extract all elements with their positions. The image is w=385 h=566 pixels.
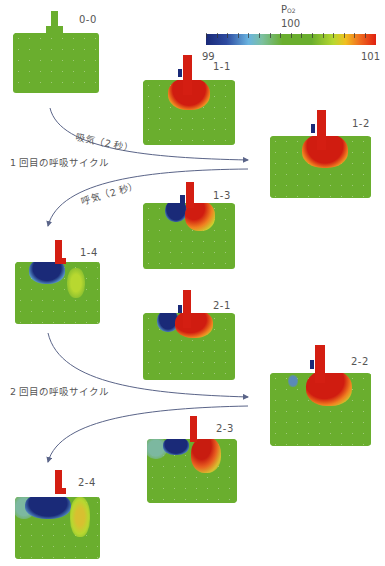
low-po2-spot (178, 305, 182, 313)
panel-label: 1-4 (80, 247, 98, 258)
alveolar-grid (15, 262, 100, 324)
low-po2-region (288, 375, 298, 387)
alveolar-grid (147, 439, 237, 503)
alveolar-grid (143, 203, 235, 269)
panel-label: 2-3 (216, 423, 234, 434)
low-po2-region (25, 493, 71, 519)
airway-stem (183, 290, 191, 328)
first-cycle-label: 1 回目の呼吸サイクル (10, 155, 109, 169)
high-po2-region (306, 370, 352, 406)
panel-label: 1-1 (213, 61, 231, 72)
panel-label: 2-2 (351, 356, 369, 367)
airway-stem (317, 110, 326, 150)
airway-foot (55, 488, 66, 494)
second-cycle-label: 2 回目の呼吸サイクル (10, 384, 109, 398)
panel-label: 1-3 (213, 190, 231, 201)
colorbar-ticks (206, 33, 376, 38)
mid-high-po2-region (70, 497, 90, 537)
alveolar-grid (15, 497, 100, 559)
high-po2-region (175, 310, 213, 338)
high-po2-region (191, 437, 221, 473)
panel-label: 2-4 (78, 477, 96, 488)
panel-label: 0-0 (79, 14, 97, 25)
colorbar-title: PO2 (281, 4, 296, 15)
airway-stem (190, 416, 197, 442)
low-po2-spot (180, 195, 185, 205)
colorbar-mid-label: 100 (281, 18, 300, 29)
low-po2-spot (310, 360, 314, 369)
panel-label: 2-1 (213, 300, 231, 311)
alveolar-grid (13, 33, 99, 93)
airway-stem (183, 55, 192, 95)
airway-foot (55, 258, 66, 264)
low-po2-region (163, 437, 189, 455)
low-po2-spot (311, 124, 315, 133)
alveolar-grid (270, 373, 371, 446)
low-po2-spot (178, 69, 182, 77)
mid-high-po2-region (67, 268, 85, 298)
panel-label: 1-2 (352, 118, 370, 129)
airway-stem (315, 345, 325, 383)
colorbar-title-sub: O2 (287, 7, 296, 14)
colorbar-max-label: 101 (361, 51, 380, 62)
airway-stem (186, 182, 194, 208)
